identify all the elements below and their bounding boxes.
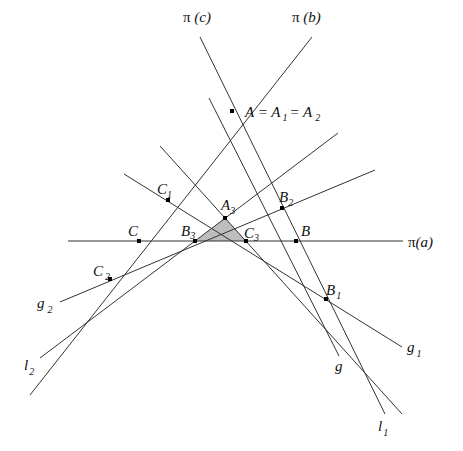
label-l1: l1	[378, 418, 388, 438]
diagram-svg: ππ(a)(a) π (b) π (c) g g1 g2 l1 l2 A = A…	[0, 0, 463, 451]
label-g1: g1	[407, 339, 422, 359]
label-point-C1: C1	[157, 181, 172, 200]
label-point-C2: C2	[93, 263, 110, 282]
label-point-A3: A3	[220, 197, 235, 216]
label-pi-b: π (b)	[292, 9, 321, 26]
label-g: g	[335, 358, 343, 374]
point-A3	[223, 216, 227, 220]
label-pi-a: ππ(a)(a)	[408, 234, 433, 251]
point-A	[230, 109, 234, 113]
point-B2	[280, 206, 284, 210]
label-point-C: C	[128, 223, 139, 239]
diagram-canvas: ππ(a)(a) π (b) π (c) g g1 g2 l1 l2 A = A…	[0, 0, 463, 451]
label-pi-c: π (c)	[183, 9, 211, 26]
point-B	[294, 239, 298, 243]
label-l2: l2	[24, 357, 34, 377]
point-C	[137, 239, 141, 243]
line-pi-b	[30, 37, 312, 395]
label-point-C3: C3	[244, 225, 259, 243]
label-g2: g2	[37, 295, 53, 315]
line-l1	[160, 146, 402, 414]
line-l2	[40, 133, 338, 358]
label-point-A: A = A1= A2	[244, 104, 320, 123]
label-point-B: B	[301, 223, 310, 239]
label-point-B2: B2	[279, 189, 293, 208]
label-point-B3: B3	[181, 223, 195, 241]
line-g1	[124, 174, 402, 347]
